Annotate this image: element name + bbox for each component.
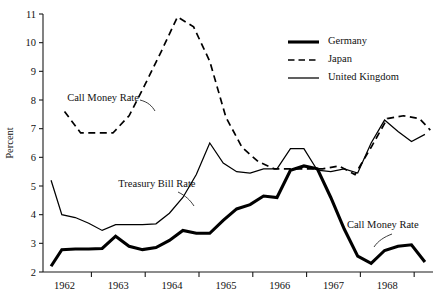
annotation-leader-line xyxy=(374,234,392,247)
annotation-leader-line xyxy=(178,192,194,206)
y-tick-label: 10 xyxy=(26,37,37,48)
y-tick-label: 9 xyxy=(31,66,36,77)
y-tick-label: 4 xyxy=(31,209,37,220)
series-line-united-kingdom xyxy=(51,120,425,230)
y-tick-label: 3 xyxy=(31,238,36,249)
y-tick-label: 6 xyxy=(31,152,36,163)
interest-rate-line-chart: 234567891011 196219631964196519661967196… xyxy=(0,0,446,298)
x-tick-label: 1964 xyxy=(162,280,184,291)
x-tick-label: 1967 xyxy=(323,280,344,291)
x-tick-label: 1965 xyxy=(215,280,236,291)
legend-label-japan: Japan xyxy=(328,53,353,64)
x-axis: 1962196319641965196619671968 xyxy=(43,272,433,291)
y-tick-label: 2 xyxy=(31,267,36,278)
x-tick-label: 1968 xyxy=(377,280,398,291)
chart-plot-area: 234567891011 196219631964196519661967196… xyxy=(0,0,446,298)
x-tick-label: 1966 xyxy=(269,280,290,291)
x-tick-label: 1963 xyxy=(108,280,129,291)
y-tick-label: 8 xyxy=(31,95,36,106)
y-axis-title: Percent xyxy=(4,127,15,159)
chart-annotations: Call Money RateTreasury Bill RateCall Mo… xyxy=(67,92,419,247)
annotation-label: Call Money Rate xyxy=(347,219,419,230)
chart-legend: GermanyJapanUnited Kingdom xyxy=(288,35,399,82)
annotation-label: Treasury Bill Rate xyxy=(118,178,196,189)
legend-label-united-kingdom: United Kingdom xyxy=(328,71,399,82)
y-axis: 234567891011 xyxy=(26,9,44,278)
y-tick-label: 5 xyxy=(31,181,36,192)
series-line-germany xyxy=(51,166,425,266)
annotation-label: Call Money Rate xyxy=(67,92,139,103)
legend-label-germany: Germany xyxy=(328,35,368,46)
y-tick-label: 11 xyxy=(26,9,36,20)
y-tick-label: 7 xyxy=(31,123,36,134)
annotation-leader-line xyxy=(140,100,155,111)
x-tick-label: 1962 xyxy=(54,280,75,291)
